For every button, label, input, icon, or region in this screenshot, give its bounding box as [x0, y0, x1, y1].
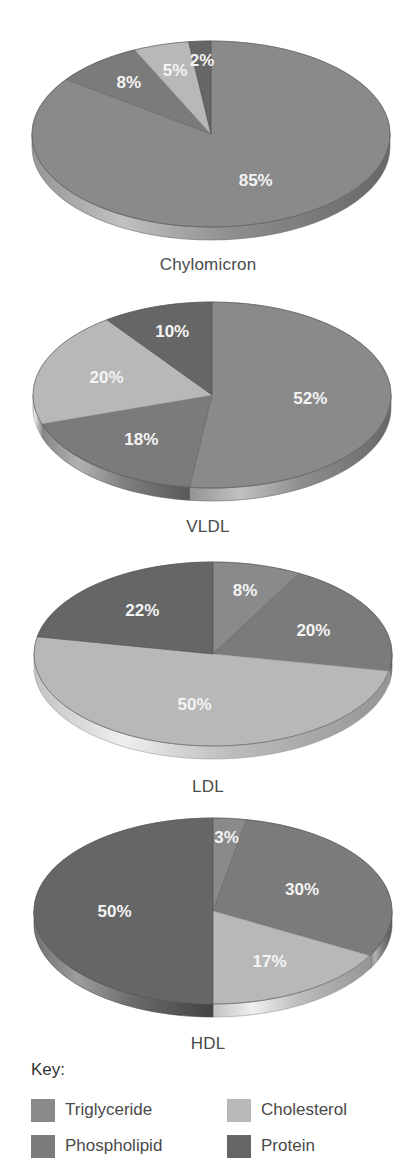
legend-item-triglyceride: Triglyceride — [31, 1098, 152, 1122]
pie-label-cholesterol: 17% — [252, 952, 286, 971]
pie-label-protein: 50% — [97, 902, 131, 921]
pie-label-triglyceride: 3% — [214, 828, 239, 847]
pie-label-phospholipid: 30% — [285, 880, 319, 899]
pie-graphic-hdl: 3%30%17%50% — [0, 0, 416, 1035]
legend-swatch-cholesterol — [227, 1099, 251, 1122]
legend-label-phospholipid: Phospholipid — [65, 1136, 162, 1156]
legend-item-phospholipid: Phospholipid — [31, 1134, 162, 1158]
pie-chart-hdl: 3%30%17%50% HDL — [0, 0, 416, 1060]
legend-label-triglyceride: Triglyceride — [65, 1100, 152, 1120]
legend-swatch-triglyceride — [31, 1099, 55, 1122]
pie-title-hdl: HDL — [0, 1034, 416, 1054]
legend-swatch-phospholipid — [31, 1135, 55, 1158]
legend-item-protein: Protein — [227, 1134, 315, 1158]
legend-label-cholesterol: Cholesterol — [261, 1100, 347, 1120]
legend-swatch-protein — [227, 1135, 251, 1158]
legend-item-cholesterol: Cholesterol — [227, 1098, 347, 1122]
legend-title: Key: — [31, 1060, 65, 1080]
legend-label-protein: Protein — [261, 1136, 315, 1156]
legend: Triglyceride Cholesterol Phospholipid Pr… — [31, 1098, 411, 1160]
